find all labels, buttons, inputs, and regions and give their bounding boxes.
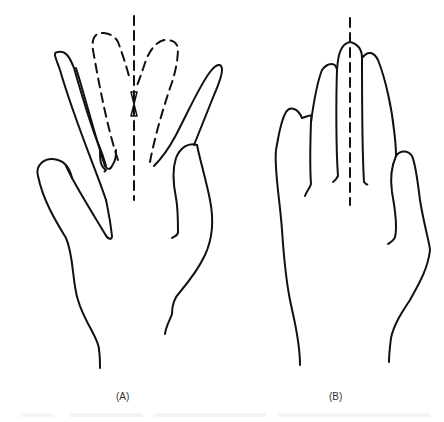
panel-b-label: (B) <box>329 391 342 402</box>
panel-a-hand <box>37 52 222 368</box>
panel-b-hand <box>276 18 430 365</box>
panel-a-label: (A) <box>116 391 129 402</box>
faint-caption-strip <box>20 413 430 417</box>
hand-diagram <box>0 0 444 422</box>
panel-a-dashed-fingers <box>93 16 178 200</box>
